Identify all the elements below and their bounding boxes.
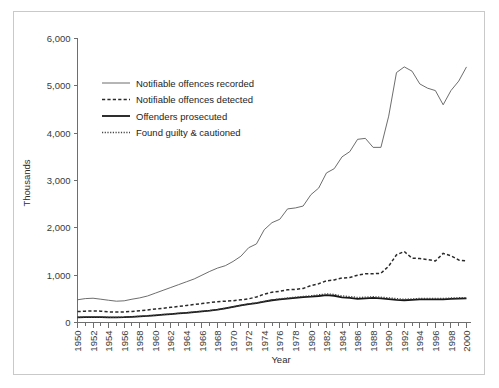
y-axis-tick-labels: 01,0002,0003,0004,0005,0006,000 — [47, 33, 71, 328]
x-tick-label: 1976 — [274, 331, 285, 352]
figure-container: 01,0002,0003,0004,0005,0006,000 19501952… — [0, 0, 499, 388]
series-line — [78, 294, 467, 317]
x-tick-label: 1964 — [181, 331, 192, 352]
x-tick-label: 1992 — [399, 331, 410, 352]
x-tick-label: 1970 — [228, 331, 239, 352]
x-tick-label: 1972 — [243, 331, 254, 352]
y-tick-label: 5,000 — [47, 80, 71, 91]
y-axis-ticks — [74, 39, 78, 323]
legend-label: Notifiable offences recorded — [136, 78, 254, 89]
x-axis-ticks — [78, 323, 467, 328]
x-tick-label: 1956 — [119, 331, 130, 352]
x-tick-label: 1974 — [259, 331, 270, 352]
legend-label: Notifiable offences detected — [136, 94, 253, 105]
x-tick-label: 1978 — [290, 331, 301, 352]
x-tick-label: 1984 — [337, 331, 348, 352]
legend-label: Found guilty & cautioned — [136, 127, 241, 138]
x-axis-title: Year — [271, 354, 290, 365]
x-tick-label: 1962 — [165, 331, 176, 352]
y-tick-label: 3,000 — [47, 175, 71, 186]
series-line — [78, 252, 467, 313]
x-tick-label: 1952 — [88, 331, 99, 352]
y-tick-label: 4,000 — [47, 128, 71, 139]
x-tick-label: 1954 — [103, 331, 114, 352]
legend-label: Offenders prosecuted — [136, 111, 227, 122]
x-tick-label: 2000 — [461, 331, 472, 352]
y-tick-label: 0 — [65, 317, 70, 328]
x-tick-label: 1990 — [383, 331, 394, 352]
x-tick-label: 1988 — [368, 331, 379, 352]
x-tick-label: 1958 — [134, 331, 145, 352]
x-tick-label: 1950 — [72, 331, 83, 352]
x-tick-label: 1994 — [414, 331, 425, 352]
y-axis-title: Thousands — [21, 159, 32, 206]
x-tick-label: 1968 — [212, 331, 223, 352]
x-tick-label: 1980 — [306, 331, 317, 352]
chart-legend: Notifiable offences recordedNotifiable o… — [102, 78, 254, 139]
chart-canvas: 01,0002,0003,0004,0005,0006,000 19501952… — [0, 0, 499, 388]
x-tick-label: 1996 — [430, 331, 441, 352]
x-tick-label: 1960 — [150, 331, 161, 352]
x-tick-label: 1982 — [321, 331, 332, 352]
y-tick-label: 6,000 — [47, 33, 71, 44]
y-tick-label: 2,000 — [47, 222, 71, 233]
x-tick-label: 1986 — [352, 331, 363, 352]
x-tick-label: 1998 — [446, 331, 457, 352]
x-tick-label: 1966 — [197, 331, 208, 352]
y-tick-label: 1,000 — [47, 270, 71, 281]
x-axis-tick-labels: 1950195219541956195819601962196419661968… — [72, 331, 472, 352]
